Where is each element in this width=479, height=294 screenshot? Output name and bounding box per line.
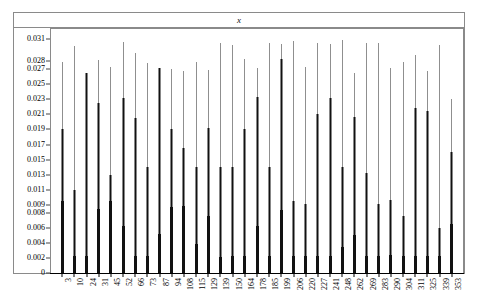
bar-spike	[414, 55, 417, 273]
x-axis-tick-label: 150	[236, 278, 244, 290]
spike-foot	[304, 256, 307, 273]
x-axis-tick-label: 311	[418, 278, 426, 290]
spike-foot	[109, 201, 112, 273]
x-axis-tick-label: 139	[223, 278, 231, 290]
x-axis-tick-label: 178	[260, 278, 268, 290]
x-axis-tick-label: 66	[138, 278, 146, 286]
x-axis-tick-label: 108	[187, 278, 195, 290]
x-axis-tick-mark	[354, 274, 355, 277]
y-axis-tick-label: 0.008	[27, 209, 45, 217]
x-axis-tick-label: 220	[309, 278, 317, 290]
x-axis-tick-mark	[366, 274, 367, 277]
x-axis-tick-mark	[390, 274, 391, 277]
spike-foot	[292, 256, 295, 273]
bar-spike	[61, 62, 64, 273]
spike-foot	[122, 226, 125, 273]
spike-body	[134, 118, 136, 273]
bar-spike	[85, 73, 88, 273]
x-axis-tick-mark	[342, 274, 343, 277]
chart-title: x	[237, 16, 241, 25]
chart-title-strip: x	[14, 13, 464, 28]
bar-spike	[73, 46, 76, 273]
x-axis-tick-label: 199	[284, 278, 292, 290]
spike-foot	[170, 207, 173, 273]
x-axis-tick-mark	[208, 274, 209, 277]
x-axis-tick-mark	[403, 274, 404, 277]
spike-foot	[329, 256, 332, 273]
bar-spike	[256, 68, 259, 274]
bar-spike	[219, 43, 222, 273]
y-axis-tick-label: 0.004	[27, 239, 45, 247]
y-axis-tick-label: 0.006	[27, 224, 45, 232]
bar-spike	[377, 43, 380, 273]
spike-foot	[353, 235, 356, 273]
spike-foot	[316, 256, 319, 273]
bar-spike	[97, 60, 100, 273]
y-axis-tick-label: 0.002	[27, 254, 45, 262]
bar-spike	[109, 67, 112, 273]
spike-body	[244, 129, 246, 273]
plot-left-axis	[50, 28, 51, 274]
plot-inner	[50, 28, 464, 274]
x-axis-tick-mark	[427, 274, 428, 277]
x-axis-tick-label: 248	[345, 278, 353, 290]
x-axis-tick-mark	[451, 274, 452, 277]
x-axis-tick-label: 241	[333, 278, 341, 290]
x-axis-tick-label: 290	[394, 278, 402, 290]
x-axis-tick-label: 269	[370, 278, 378, 290]
y-axis-labels: 0.0310.0280.0270.0250.0230.0210.0190.017…	[14, 28, 50, 274]
bar-spike	[402, 62, 405, 273]
spike-foot	[61, 201, 64, 273]
x-axis-tick-label: 3	[65, 278, 73, 282]
spike-body	[414, 108, 416, 273]
bar-spike	[195, 62, 198, 273]
spike-foot	[243, 256, 246, 273]
spike-foot	[134, 256, 137, 273]
x-axis-tick-mark	[257, 274, 258, 277]
spike-foot	[341, 247, 344, 273]
spike-foot	[365, 256, 368, 273]
spike-body	[329, 98, 331, 273]
x-axis-tick-label: 94	[175, 278, 183, 286]
bar-spike	[146, 63, 149, 273]
x-axis-tick-label: 262	[357, 278, 365, 290]
x-axis-tick-label: 283	[382, 278, 390, 290]
bar-spike	[158, 68, 161, 274]
x-axis-tick-mark	[196, 274, 197, 277]
plot-top-border	[50, 28, 464, 29]
bar-spike	[268, 43, 271, 273]
bar-spike	[231, 45, 234, 273]
bar-spike	[134, 53, 137, 273]
spike-foot	[414, 256, 417, 273]
y-axis-tick-label: 0.017	[27, 141, 45, 149]
plot-area	[50, 28, 464, 274]
bar-spike	[438, 45, 441, 273]
spike-foot	[426, 256, 429, 273]
y-axis-tick-label: 0.025	[27, 80, 45, 88]
x-axis-tick-label: 325	[430, 278, 438, 290]
x-axis-tick-mark	[378, 274, 379, 277]
x-axis-tick-mark	[86, 274, 87, 277]
x-axis-tick-label: 129	[211, 278, 219, 290]
x-axis-tick-label: 10	[77, 278, 85, 286]
spike-foot	[377, 256, 380, 273]
x-axis-tick-mark	[62, 274, 63, 277]
spike-foot	[97, 209, 100, 273]
x-axis-tick-label: 304	[406, 278, 414, 290]
spike-foot	[402, 256, 405, 273]
x-axis-tick-label: 115	[199, 278, 207, 290]
x-axis-tick-mark	[159, 274, 160, 277]
x-axis-tick-mark	[439, 274, 440, 277]
y-axis-tick-label: 0.011	[27, 186, 45, 194]
bar-spike	[365, 43, 368, 273]
spike-foot	[280, 210, 283, 273]
x-axis-tick-label: 52	[126, 278, 134, 286]
spike-foot	[146, 256, 149, 273]
bar-spike	[182, 71, 185, 273]
y-axis-tick-label: 0.031	[27, 35, 45, 43]
spike-body	[426, 111, 428, 273]
x-axis-tick-label: 227	[321, 278, 329, 290]
x-axis-tick-mark	[110, 274, 111, 277]
spike-foot	[268, 256, 271, 273]
